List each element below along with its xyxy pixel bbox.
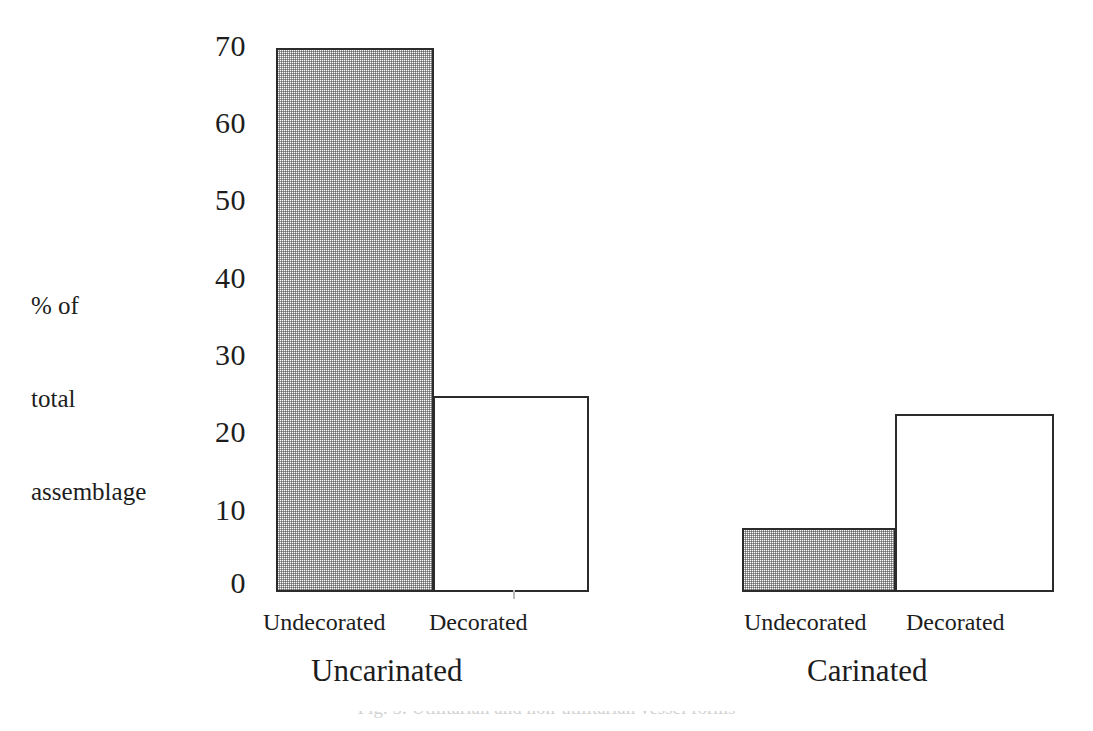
bar-uncarinated-decorated	[433, 396, 589, 592]
group-label-uncarinated: Uncarinated	[311, 654, 462, 688]
category-label-uncarinated-decorated: Decorated	[429, 609, 528, 635]
figure-caption-clipped: Fig. 5. Utilitarian and non-utilitarian …	[0, 711, 1093, 731]
bar-carinated-undecorated	[742, 528, 896, 592]
bar-chart-figure: % of total assemblage 70 60 50 40 30 20 …	[0, 0, 1093, 731]
category-label-uncarinated-undecorated: Undecorated	[263, 609, 386, 635]
category-label-carinated-undecorated: Undecorated	[744, 609, 867, 635]
bar-carinated-decorated	[895, 414, 1054, 592]
bar-uncarinated-undecorated	[276, 48, 434, 592]
figure-caption-text: Fig. 5. Utilitarian and non-utilitarian …	[0, 711, 1093, 719]
group-label-carinated: Carinated	[807, 654, 928, 688]
axis-tick-mark	[513, 590, 515, 599]
category-label-carinated-decorated: Decorated	[906, 609, 1005, 635]
